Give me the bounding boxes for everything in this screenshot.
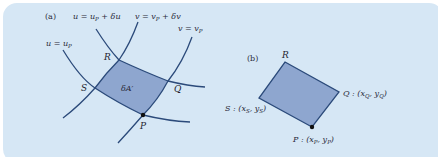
point-r-label-b: R — [281, 50, 289, 60]
point-p-label: P — [139, 121, 147, 131]
point-s-label: S — [81, 83, 87, 93]
panel-a: (a) u = uP + δu v = vP + δv u = uP v = v… — [45, 12, 205, 143]
point-p-marker — [141, 113, 145, 117]
label-v-shift: v = vP + δv — [135, 12, 181, 22]
area-element-label: δA′ — [121, 84, 134, 93]
label-u-shift: u = uP + δu — [73, 12, 121, 22]
point-p-marker-b — [310, 125, 314, 129]
point-p-coords: P : (xP, yP) — [292, 135, 334, 145]
point-r-label: R — [103, 52, 111, 62]
point-q-coords: Q : (xQ, yQ) — [343, 89, 387, 99]
panel-a-label: (a) — [45, 12, 56, 21]
label-v-base: v = vP — [178, 24, 203, 34]
parallelogram — [259, 62, 339, 127]
point-s-coords: S : (xS, yS) — [225, 104, 266, 114]
label-u-base: u = uP — [46, 39, 72, 49]
panel-b-label: (b) — [247, 54, 258, 63]
point-q-label: Q — [174, 84, 182, 94]
panel-b: (b) R Q : (xQ, yQ) S : (xS, yS) P : (xP,… — [225, 50, 387, 145]
coordinate-transform-diagram: (a) u = uP + δu v = vP + δv u = uP v = v… — [0, 0, 438, 157]
